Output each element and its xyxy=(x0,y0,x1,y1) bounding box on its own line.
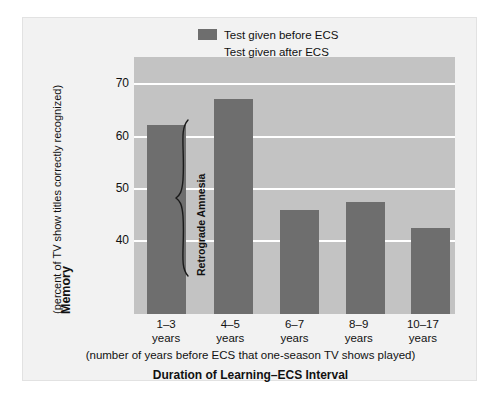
bar-10-17-years[interactable] xyxy=(411,228,450,314)
x-tick-range: 1–3 xyxy=(134,317,198,331)
y-axis-ticks: 70 60 50 40 xyxy=(99,57,129,277)
legend-swatch-after-ecs xyxy=(198,46,217,57)
x-tick-unit: years xyxy=(391,331,455,345)
legend: Test given before ECS Test given after E… xyxy=(198,26,338,60)
x-tick-unit: years xyxy=(262,331,326,345)
x-tick-unit: years xyxy=(327,331,391,345)
bar-4-5-years[interactable] xyxy=(214,99,253,314)
legend-entry-before-ecs[interactable]: Test given before ECS xyxy=(198,26,338,43)
retrograde-amnesia-annotation: Retrograde Amnesia xyxy=(175,118,217,278)
bar-6-7-years[interactable] xyxy=(280,210,319,314)
x-tick-label-6-7-years: 6–7 years xyxy=(262,317,326,349)
y-tick-label-40: 40 xyxy=(103,234,129,246)
x-tick-range: 4–5 xyxy=(198,317,262,331)
y-axis-title-group: Memory (percent of TV show titles correc… xyxy=(49,57,95,314)
x-tick-label-4-5-years: 4–5 years xyxy=(198,317,262,349)
y-tick-label-50: 50 xyxy=(103,182,129,194)
x-tick-unit: years xyxy=(198,331,262,345)
x-tick-range: 10–17 xyxy=(391,317,455,331)
x-tick-label-8-9-years: 8–9 years xyxy=(327,317,391,349)
bar-8-9-years[interactable] xyxy=(346,202,385,314)
legend-entry-after-ecs[interactable]: Test given after ECS xyxy=(198,43,338,60)
y-tick-label-60: 60 xyxy=(103,130,129,142)
x-tick-label-10-17-years: 10–17 years xyxy=(391,317,455,349)
legend-swatch-before-ecs xyxy=(198,29,217,40)
x-axis-tick-labels: 1–3 years 4–5 years 6–7 years 8–9 years … xyxy=(134,317,455,349)
x-tick-label-1-3-years: 1–3 years xyxy=(134,317,198,349)
x-tick-unit: years xyxy=(134,331,198,345)
y-tick-label-70: 70 xyxy=(103,77,129,89)
legend-label-after-ecs: Test given after ECS xyxy=(224,46,329,58)
x-axis-subtitle: (number of years before ECS that one-sea… xyxy=(23,349,478,361)
y-axis-subtitle: (percent of TV show titles correctly rec… xyxy=(51,85,63,314)
x-tick-range: 6–7 xyxy=(262,317,326,331)
chart-title: Duration of Learning–ECS Interval xyxy=(23,368,478,382)
x-tick-range: 8–9 xyxy=(327,317,391,331)
legend-label-before-ecs: Test given before ECS xyxy=(224,29,338,41)
retrograde-amnesia-label: Retrograde Amnesia xyxy=(195,174,207,276)
figure-card: Retrograde Amnesia 70 60 50 40 Memory (p… xyxy=(22,17,477,381)
